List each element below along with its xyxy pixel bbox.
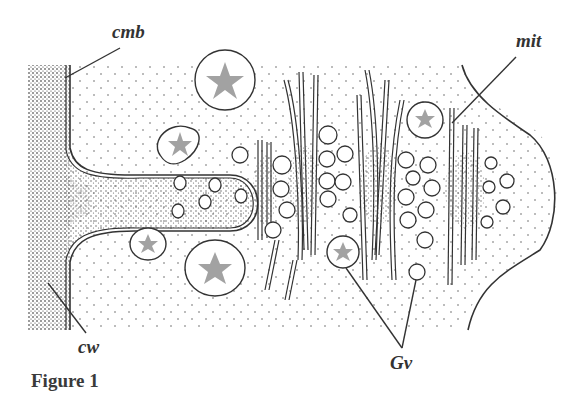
figure-caption: Figure 1 [31, 370, 99, 392]
label-mit: mit [516, 30, 541, 52]
label-cmb: cmb [112, 21, 145, 43]
label-cw: cw [78, 336, 99, 358]
label-gv: Gv [390, 352, 412, 374]
